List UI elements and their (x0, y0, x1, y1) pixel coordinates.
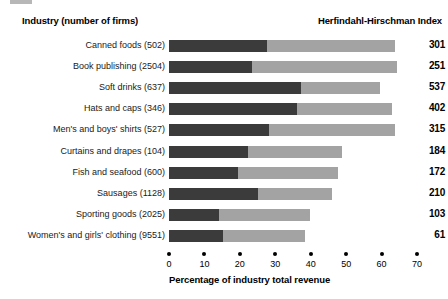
bar-segment-four-firm (169, 188, 258, 200)
row-value-hhi: 251 (409, 60, 445, 71)
row-value-hhi: 301 (409, 39, 445, 50)
chart-row: Fish and seafood (600)172 (0, 165, 448, 186)
bar-group (169, 209, 310, 221)
row-value-hhi: 402 (409, 102, 445, 113)
bar-segment-four-firm (169, 230, 223, 242)
row-value-hhi: 103 (409, 208, 445, 219)
row-label-industry: Canned foods (502) (85, 40, 165, 50)
chart-row: Curtains and drapes (104)184 (0, 144, 448, 165)
bar-segment-four-firm (169, 209, 219, 221)
chart-row: Sporting goods (2025)103 (0, 207, 448, 228)
x-axis-tick-label: 30 (263, 259, 287, 269)
row-value-hhi: 210 (409, 187, 445, 198)
bar-group (169, 124, 395, 136)
x-axis-tick-dot (273, 252, 277, 256)
row-label-industry: Fish and seafood (600) (72, 167, 165, 177)
bar-segment-twenty-firm (223, 230, 305, 242)
row-label-industry: Sporting goods (2025) (76, 209, 165, 219)
bar-segment-twenty-firm (258, 188, 332, 200)
chart-row: Soft drinks (637)537 (0, 80, 448, 101)
bar-segment-twenty-firm (301, 82, 380, 94)
x-axis-tick-dot (238, 252, 242, 256)
x-axis-tick-dot (415, 252, 419, 256)
bar-group (169, 40, 395, 52)
bar-segment-twenty-firm (269, 124, 395, 136)
chart-row: Men's and boys' shirts (527)315 (0, 122, 448, 143)
chart-row: Canned foods (502)301 (0, 38, 448, 59)
bar-segment-twenty-firm (297, 103, 393, 115)
x-axis-tick-dot (167, 252, 171, 256)
bar-group (169, 230, 305, 242)
x-axis-tick-label: 50 (334, 259, 358, 269)
row-label-industry: Hats and caps (346) (84, 103, 165, 113)
row-label-industry: Sausages (1128) (97, 188, 165, 198)
bar-segment-four-firm (169, 40, 267, 52)
bar-segment-four-firm (169, 146, 248, 158)
row-value-hhi: 61 (409, 229, 445, 240)
bar-segment-twenty-firm (267, 40, 395, 52)
row-label-industry: Curtains and drapes (104) (60, 146, 165, 156)
x-axis: 010203040506070 Percentage of industry t… (0, 252, 448, 292)
bar-segment-twenty-firm (238, 167, 338, 179)
bar-group (169, 146, 342, 158)
bar-segment-four-firm (169, 103, 297, 115)
row-value-hhi: 184 (409, 145, 445, 156)
row-label-industry: Men's and boys' shirts (527) (53, 124, 165, 134)
chart-row: Women's and girls' clothing (9551)61 (0, 228, 448, 249)
x-axis-tick-label: 0 (157, 259, 181, 269)
bar-group (169, 167, 338, 179)
row-value-hhi: 172 (409, 166, 445, 177)
row-value-hhi: 315 (409, 123, 445, 134)
row-label-industry: Women's and girls' clothing (9551) (28, 230, 165, 240)
bar-segment-four-firm (169, 61, 252, 73)
chart-row: Hats and caps (346)402 (0, 101, 448, 122)
bar-segment-four-firm (169, 167, 238, 179)
chart-row: Sausages (1128)210 (0, 186, 448, 207)
bar-segment-four-firm (169, 82, 301, 94)
x-axis-tick-dot (202, 252, 206, 256)
x-axis-tick-dot (344, 252, 348, 256)
bar-group (169, 61, 397, 73)
bar-segment-twenty-firm (219, 209, 310, 221)
row-value-hhi: 537 (409, 81, 445, 92)
x-axis-tick-dot (309, 252, 313, 256)
row-label-industry: Book publishing (2504) (73, 61, 165, 71)
bar-segment-twenty-firm (248, 146, 342, 158)
x-axis-tick-label: 70 (405, 259, 429, 269)
bar-group (169, 188, 332, 200)
x-axis-tick-dot (380, 252, 384, 256)
x-axis-tick-label: 40 (299, 259, 323, 269)
x-axis-title: Percentage of industry total revenue (169, 274, 330, 285)
x-axis-tick-label: 20 (228, 259, 252, 269)
bar-group (169, 103, 392, 115)
x-axis-tick-label: 10 (192, 259, 216, 269)
row-label-industry: Soft drinks (637) (99, 82, 165, 92)
concentration-ratio-chart: Industry (number of firms) Herfindahl-Hi… (0, 0, 448, 299)
bar-group (169, 82, 380, 94)
chart-row: Book publishing (2504)251 (0, 59, 448, 80)
column-header-hhi: Herfindahl-Hirschman Index (318, 15, 442, 26)
x-axis-tick-label: 60 (370, 259, 394, 269)
column-header-industry: Industry (number of firms) (22, 15, 138, 26)
bar-segment-twenty-firm (252, 61, 397, 73)
bar-segment-four-firm (169, 124, 269, 136)
